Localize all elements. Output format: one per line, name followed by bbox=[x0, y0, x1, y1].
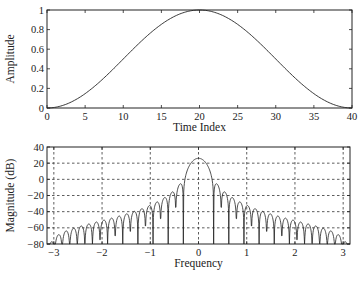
y-tick-label: 0.2 bbox=[31, 83, 44, 94]
x-tick-label: 35 bbox=[309, 111, 320, 122]
x-tick-label: 3 bbox=[341, 247, 346, 258]
y-tick-label: −40 bbox=[28, 206, 44, 217]
x-axis-label: Time Index bbox=[173, 121, 226, 133]
y-tick-label: 1 bbox=[39, 5, 44, 16]
y-axis-label: Magnitude (dB) bbox=[4, 158, 17, 232]
x-tick-label: −1 bbox=[145, 247, 156, 258]
x-tick-label: 2 bbox=[292, 247, 297, 258]
y-axis-label: Amplitude bbox=[4, 34, 17, 83]
x-tick-label: 5 bbox=[83, 111, 88, 122]
x-axis-label: Frequency bbox=[174, 257, 223, 270]
y-tick-label: 0.4 bbox=[31, 63, 45, 74]
x-tick-label: −3 bbox=[48, 247, 59, 258]
y-tick-label: 0.6 bbox=[31, 44, 44, 55]
figure: 051015202530354000.20.40.60.81Time Index… bbox=[0, 0, 364, 281]
x-tick-label: 15 bbox=[156, 111, 167, 122]
x-tick-label: −2 bbox=[96, 247, 107, 258]
magnitude-plot: −3−2−10123−80−60−40−2002040FrequencyMagn… bbox=[4, 142, 350, 271]
y-tick-label: 0 bbox=[39, 103, 44, 114]
amplitude-curve bbox=[47, 10, 352, 108]
x-tick-label: 30 bbox=[271, 111, 282, 122]
y-tick-label: 0.8 bbox=[31, 24, 44, 35]
x-tick-label: 25 bbox=[232, 111, 243, 122]
y-tick-label: −80 bbox=[28, 239, 44, 250]
y-tick-label: 20 bbox=[34, 158, 45, 169]
amplitude-plot: 051015202530354000.20.40.60.81Time Index… bbox=[4, 5, 357, 134]
y-tick-label: 0 bbox=[39, 174, 44, 185]
x-tick-label: 10 bbox=[118, 111, 129, 122]
magnitude-curve bbox=[47, 158, 350, 244]
y-tick-label: −60 bbox=[28, 222, 44, 233]
x-tick-label: 0 bbox=[44, 111, 49, 122]
x-tick-label: 40 bbox=[347, 111, 358, 122]
y-tick-label: 40 bbox=[34, 142, 45, 153]
y-tick-label: −20 bbox=[28, 190, 44, 201]
axes-frame bbox=[47, 10, 352, 108]
x-tick-label: 1 bbox=[244, 247, 249, 258]
